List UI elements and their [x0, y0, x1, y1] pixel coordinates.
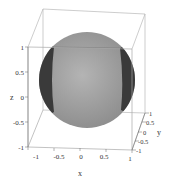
x-tick-label: 1 [128, 155, 132, 163]
z-tick-label: -0.5 [13, 119, 25, 127]
y-tick-label: -0.5 [138, 138, 148, 145]
x-axis-label: x [78, 169, 82, 178]
y-axis-label: y [157, 128, 161, 137]
x-tick-label: 0 [79, 153, 83, 161]
z-tick-label: 0.5 [15, 69, 24, 77]
x-tick-label: 0.5 [100, 153, 109, 161]
z-tick-label: 1 [21, 44, 25, 52]
left-dark-band [39, 40, 54, 120]
sphere-surface [39, 32, 140, 128]
z-tick-label: -1 [18, 144, 24, 152]
y-tick-label: 1 [149, 110, 152, 117]
z-axis-label: z [10, 93, 14, 102]
z-tick-label: 0 [21, 94, 25, 102]
x-tick-label: -0.5 [53, 153, 65, 161]
plot-canvas: 1 0.5 0 -0.5 -1 z -1 -0.5 0 0.5 1 x [0, 0, 172, 184]
y-tick-label: 0.5 [146, 119, 154, 126]
right-dark-band [120, 40, 140, 120]
y-tick-label: -1 [136, 147, 141, 154]
sphere-3d-plot: 1 0.5 0 -0.5 -1 z -1 -0.5 0 0.5 1 x [0, 0, 172, 184]
x-tick-label: -1 [33, 153, 39, 161]
y-tick-label: 0 [143, 129, 146, 136]
z-axis [25, 47, 28, 147]
